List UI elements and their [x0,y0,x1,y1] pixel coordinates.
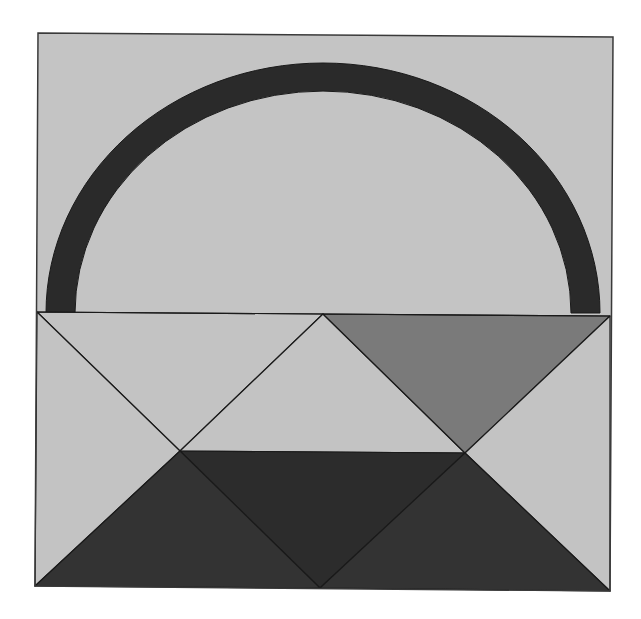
basket-quilt-diagram [0,0,641,619]
